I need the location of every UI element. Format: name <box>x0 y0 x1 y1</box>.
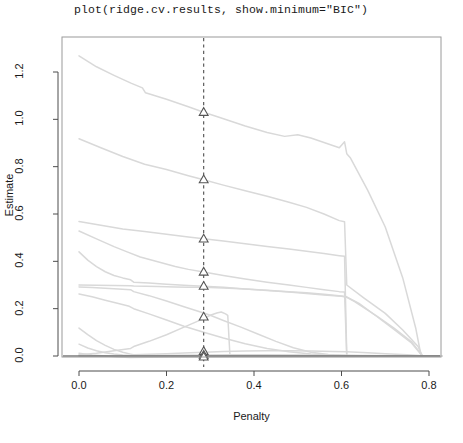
x-tick-label-4: 0.8 <box>409 379 449 391</box>
y-tick-label-2: 0.4 <box>13 240 25 280</box>
x-axis-title: Penalty <box>202 410 302 422</box>
y-tick-label-3: 0.6 <box>13 193 25 233</box>
y-tick-label-5: 1.0 <box>13 98 25 138</box>
path-coef-5 <box>79 252 442 356</box>
path-coef-6 <box>79 285 442 356</box>
x-tick-label-3: 0.6 <box>322 379 362 391</box>
ridge-path-plot <box>0 0 463 443</box>
x-tick-label-0: 0.0 <box>59 379 99 391</box>
y-tick-label-0: 0.0 <box>13 335 25 375</box>
coefficient-paths-layer <box>79 56 442 358</box>
path-coef-4 <box>79 231 442 356</box>
y-tick-label-4: 0.8 <box>13 146 25 186</box>
path-coef-12-rising <box>79 312 442 356</box>
path-coef-1 <box>79 56 442 356</box>
y-tick-label-6: 1.2 <box>13 51 25 91</box>
x-tick-label-2: 0.4 <box>234 379 274 391</box>
plot-frame <box>62 37 441 357</box>
axes-ticks <box>53 72 429 376</box>
path-coef-7 <box>79 287 442 356</box>
y-tick-label-1: 0.2 <box>13 288 25 328</box>
path-coef-9 <box>79 328 442 356</box>
frame-rect <box>62 37 441 357</box>
x-tick-label-1: 0.2 <box>147 379 187 391</box>
